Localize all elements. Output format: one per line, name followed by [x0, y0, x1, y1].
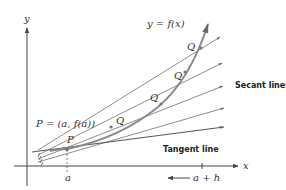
point-q-label-1: Q: [116, 115, 124, 126]
point-q-label-2: Q: [150, 92, 158, 103]
secant-line-2: [38, 63, 222, 155]
point-q-1: [109, 125, 112, 128]
point-q-label-4: Q: [187, 41, 195, 52]
point-q-4: [199, 46, 202, 49]
tick-a-plus-h-label: a + h: [193, 172, 220, 183]
point-p-label: P: [66, 134, 74, 145]
secant-tangent-diagram: y x y = f(x) P P = (a, f(a)) Q Q Q Q a S…: [0, 0, 286, 190]
point-q-2: [159, 102, 162, 105]
secant-line-1: [38, 37, 220, 150]
approach-marks: [38, 153, 43, 166]
curve-label: y = f(x): [146, 18, 185, 29]
point-q-3: [183, 70, 186, 73]
tangent-line-label: Tangent line: [163, 145, 219, 154]
secant-lines-label: Secant lines: [235, 81, 286, 90]
y-axis-label: y: [23, 13, 30, 24]
x-axis-label: x: [243, 160, 249, 171]
axes: y x: [14, 13, 249, 186]
point-q-label-3: Q: [174, 70, 182, 81]
tick-a-label: a: [65, 172, 71, 183]
point-p-coords-label: P = (a, f(a)): [35, 118, 95, 129]
